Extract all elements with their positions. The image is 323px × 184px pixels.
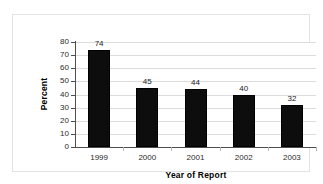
x-tick-label: 2003 bbox=[268, 153, 316, 162]
x-axis-title: Year of Report bbox=[75, 170, 317, 180]
gridline bbox=[75, 55, 316, 56]
bar-value-label: 45 bbox=[127, 77, 167, 86]
y-axis-line bbox=[75, 41, 76, 148]
gridline bbox=[75, 68, 316, 69]
x-tick-label: 2000 bbox=[123, 153, 171, 162]
x-tick-mark bbox=[316, 147, 317, 151]
x-axis-line bbox=[75, 147, 317, 148]
bar-value-label: 74 bbox=[79, 39, 119, 48]
bar-value-label: 40 bbox=[224, 84, 264, 93]
y-tick-label: 70 bbox=[47, 51, 69, 59]
y-tick-label: 80 bbox=[47, 38, 69, 46]
bar[interactable] bbox=[136, 88, 158, 147]
y-tick-mark bbox=[71, 55, 75, 56]
x-tick-label: 1999 bbox=[75, 153, 123, 162]
y-tick-label: 60 bbox=[47, 64, 69, 72]
y-tick-mark bbox=[71, 108, 75, 109]
x-tick-label: 2002 bbox=[220, 153, 268, 162]
y-tick-label: 0 bbox=[47, 143, 69, 151]
y-tick-mark bbox=[71, 95, 75, 96]
y-tick-label: 40 bbox=[47, 91, 69, 99]
bar[interactable] bbox=[233, 95, 255, 148]
chart-frame: Percent 80706050403020100 74199945200044… bbox=[12, 14, 310, 172]
bar[interactable] bbox=[185, 89, 207, 147]
bar-value-label: 32 bbox=[272, 94, 312, 103]
bar[interactable] bbox=[88, 50, 110, 147]
y-tick-label: 10 bbox=[47, 130, 69, 138]
y-tick-label: 20 bbox=[47, 117, 69, 125]
y-tick-mark bbox=[71, 134, 75, 135]
x-tick-mark bbox=[268, 147, 269, 151]
x-tick-label: 2001 bbox=[172, 153, 220, 162]
x-tick-mark bbox=[123, 147, 124, 151]
y-tick-label: 30 bbox=[47, 104, 69, 112]
y-tick-mark bbox=[71, 42, 75, 43]
y-tick-label: 50 bbox=[47, 77, 69, 85]
bar[interactable] bbox=[281, 105, 303, 147]
bar-value-label: 44 bbox=[176, 78, 216, 87]
y-tick-mark bbox=[71, 121, 75, 122]
x-tick-mark bbox=[220, 147, 221, 151]
y-tick-mark bbox=[71, 68, 75, 69]
y-axis-tick-labels: 80706050403020100 bbox=[45, 15, 69, 173]
x-tick-mark bbox=[171, 147, 172, 151]
y-tick-mark bbox=[71, 147, 75, 148]
y-tick-mark bbox=[71, 81, 75, 82]
